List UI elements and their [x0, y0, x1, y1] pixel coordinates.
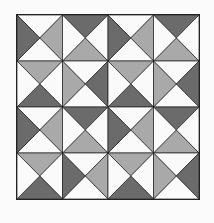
quilt-pattern [16, 14, 200, 200]
quilt-grid [17, 15, 199, 199]
